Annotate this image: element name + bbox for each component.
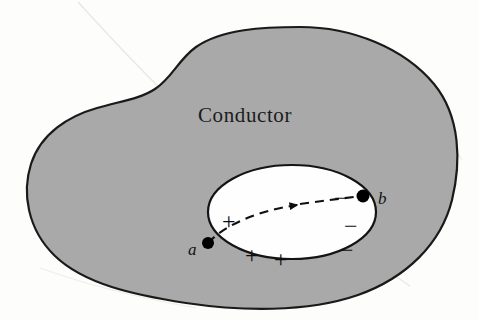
negative-charge-sign: − [344,214,358,238]
positive-charge-sign: + [274,247,288,271]
conductor-body [27,27,457,309]
point-a-dot [202,237,214,249]
negative-charge-sign: − [340,238,354,262]
point-b-dot [357,190,370,203]
negative-charge-sign: − [334,186,348,210]
point-label-b: b [378,190,387,207]
positive-charge-sign: + [245,243,259,267]
conductor-label: Conductor [198,105,292,126]
physics-figure: Conductor a b + + + − − − [0,0,479,320]
point-label-a: a [188,241,197,258]
positive-charge-sign: + [222,209,236,233]
figure-canvas [0,0,479,320]
